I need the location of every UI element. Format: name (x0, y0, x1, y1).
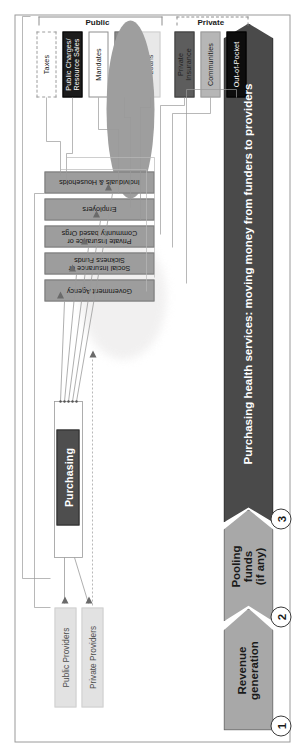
rotated-diagram-wrapper: Revenue generation Pooling funds (if any… (0, 0, 304, 753)
stage2-line2: funds (241, 545, 253, 587)
stage1-line1: Revenue (235, 641, 247, 700)
stage-badge-1: 1 (270, 715, 291, 736)
stage-badge-3: 3 (270, 508, 291, 529)
stage1-line2: generation (247, 641, 259, 700)
stage2-line1: Pooling (229, 545, 241, 587)
figure-page: Revenue generation Pooling funds (if any… (0, 0, 304, 753)
stage-label-pooling-funds: Pooling funds (if any) (229, 545, 265, 587)
stage-badge-2: 2 (270, 606, 291, 627)
stage-label-purchasing: Purchasing health services: moving money… (241, 83, 253, 464)
stage-label-revenue-generation: Revenue generation (235, 641, 259, 700)
diagram-canvas: Revenue generation Pooling funds (if any… (0, 0, 304, 753)
stage2-line3: (if any) (253, 545, 265, 587)
connector-lines (0, 0, 304, 753)
